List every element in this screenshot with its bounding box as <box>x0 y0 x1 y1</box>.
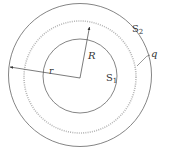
outer-surface-label: S2 <box>132 23 143 36</box>
small-radius-label: r <box>49 66 54 76</box>
charge-label: q <box>151 48 157 59</box>
big-radius-label: R <box>87 50 96 61</box>
inner-surface-label: S1 <box>106 72 117 85</box>
gauss-surfaces-diagram: S2 q R r S1 <box>0 0 172 153</box>
charge-leader-line <box>137 55 150 66</box>
outer-surface-s2 <box>9 4 152 147</box>
small-radius-arrow <box>10 67 80 78</box>
